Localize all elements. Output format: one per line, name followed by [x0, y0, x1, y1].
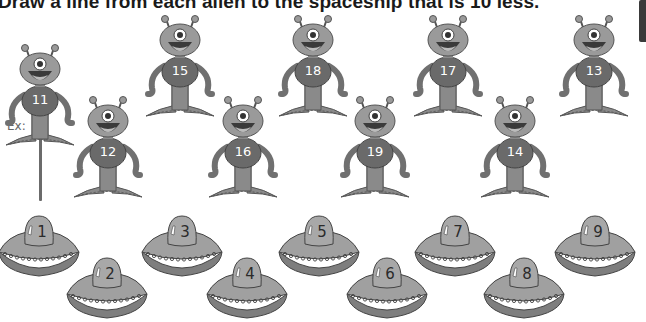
alien-12[interactable]: 12: [68, 97, 148, 207]
spaceship-number: 1: [27, 223, 57, 241]
spaceship-number: 3: [170, 223, 200, 241]
alien-number: 12: [88, 144, 128, 159]
alien-number: 13: [574, 63, 614, 78]
alien-14[interactable]: 14: [475, 97, 555, 207]
alien-number: 15: [160, 63, 200, 78]
alien-number: 19: [355, 144, 395, 159]
spaceship-2[interactable]: 2: [65, 256, 149, 320]
alien-number: 17: [428, 63, 468, 78]
spaceship-number: 6: [375, 265, 405, 283]
alien-13[interactable]: 13: [554, 16, 634, 126]
alien-19[interactable]: 19: [335, 97, 415, 207]
spaceship-number: 4: [235, 265, 265, 283]
spaceship-number: 7: [443, 223, 473, 241]
alien-16[interactable]: 16: [203, 97, 283, 207]
alien-number: 11: [20, 92, 60, 107]
alien-number: 18: [293, 63, 333, 78]
page-edge-tab: [639, 0, 646, 42]
spaceship-9[interactable]: 9: [553, 214, 637, 278]
alien-number: 14: [495, 144, 535, 159]
spaceship-number: 8: [512, 265, 542, 283]
spaceship-number: 5: [307, 223, 337, 241]
worksheet-instruction: Draw a line from each alien to the space…: [0, 0, 539, 13]
alien-number: 16: [223, 144, 263, 159]
spaceship-number: 9: [583, 223, 613, 241]
spaceship-number: 2: [95, 265, 125, 283]
